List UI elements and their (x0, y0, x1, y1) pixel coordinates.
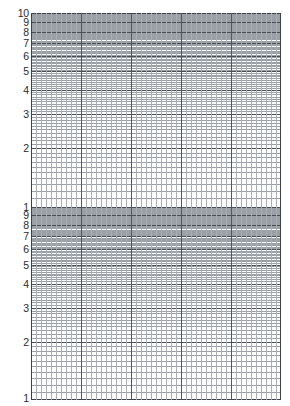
gridline-v-minor (71, 13, 72, 400)
gridline-v-major (181, 13, 182, 400)
y-tick-label-3-upper: 3 (23, 109, 29, 120)
gridline-v-minor (276, 13, 277, 400)
graph-paper-sheet: 10987654321987654321 (0, 0, 290, 406)
gridline-v-minor (251, 13, 252, 400)
gridline-v-minor (166, 13, 167, 400)
gridline-v-minor (271, 13, 272, 400)
gridline-v-minor (256, 13, 257, 400)
y-tick-label-5-lower: 5 (23, 259, 29, 270)
gridline-v-major (280, 13, 281, 400)
y-axis-label-column: 10987654321987654321 (0, 0, 31, 406)
y-tick-label-7-lower: 7 (23, 231, 29, 242)
gridline-v-minor (226, 13, 227, 400)
gridline-v-minor (246, 13, 247, 400)
gridline-v-major (81, 13, 82, 400)
grid-area (31, 13, 281, 400)
gridline-v-minor (201, 13, 202, 400)
gridline-v-minor (101, 13, 102, 400)
gridline-v-minor (136, 13, 137, 400)
gridline-v-major (31, 13, 32, 400)
gridline-v-minor (111, 13, 112, 400)
gridline-v-minor (176, 13, 177, 400)
gridline-v-minor (51, 13, 52, 400)
gridline-v-minor (146, 13, 147, 400)
y-tick-label-8-upper: 8 (23, 27, 29, 38)
y-tick-label-7-upper: 7 (23, 38, 29, 49)
gridline-v-minor (121, 13, 122, 400)
y-tick-label-2-upper: 2 (23, 143, 29, 154)
gridline-v-major (231, 13, 232, 400)
y-tick-label-5-upper: 5 (23, 66, 29, 77)
gridline-v-minor (241, 13, 242, 400)
gridline-v-minor (141, 13, 142, 400)
y-tick-label-2-lower: 2 (23, 337, 29, 348)
gridline-v-minor (36, 13, 37, 400)
gridline-v-minor (216, 13, 217, 400)
gridline-v-minor (156, 13, 157, 400)
gridline-v-minor (161, 13, 162, 400)
gridline-v-minor (191, 13, 192, 400)
y-tick-label-4-upper: 4 (23, 85, 29, 96)
gridline-v-minor (91, 13, 92, 400)
gridline-v-minor (96, 13, 97, 400)
gridline-v-minor (106, 13, 107, 400)
y-tick-label-1-bottom: 1 (23, 393, 29, 404)
gridline-v-major (131, 13, 132, 400)
gridline-v-minor (116, 13, 117, 400)
y-tick-label-6-lower: 6 (23, 244, 29, 255)
gridline-v-minor (236, 13, 237, 400)
gridline-v-minor (221, 13, 222, 400)
gridline-v-minor (41, 13, 42, 400)
y-tick-label-6-upper: 6 (23, 51, 29, 62)
gridline-v-minor (46, 13, 47, 400)
gridline-v-minor (211, 13, 212, 400)
gridline-v-minor (56, 13, 57, 400)
gridline-v-minor (126, 13, 127, 400)
gridline-v-minor (61, 13, 62, 400)
gridline-v-minor (196, 13, 197, 400)
gridline-v-minor (261, 13, 262, 400)
gridline-v-minor (171, 13, 172, 400)
y-tick-label-3-lower: 3 (23, 302, 29, 313)
gridline-v-minor (186, 13, 187, 400)
gridline-v-minor (266, 13, 267, 400)
gridline-v-minor (151, 13, 152, 400)
gridline-v-minor (66, 13, 67, 400)
gridline-v-minor (86, 13, 87, 400)
y-tick-label-4-lower: 4 (23, 278, 29, 289)
gridline-v-minor (206, 13, 207, 400)
gridline-v-minor (76, 13, 77, 400)
y-tick-label-8-lower: 8 (23, 220, 29, 231)
